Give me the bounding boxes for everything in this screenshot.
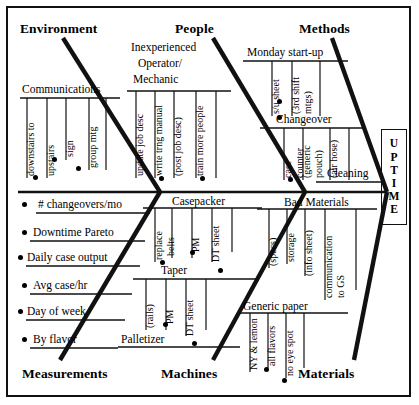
- branch-label-casepacker: Casepacker: [172, 196, 225, 208]
- cause-case: case: [283, 161, 293, 178]
- uptime-letter-u: U: [390, 137, 398, 150]
- branch-label-mechanic: Mechanic: [133, 74, 178, 86]
- cause-to-gs: to GS: [336, 275, 346, 298]
- cause-dot: [159, 176, 164, 181]
- measurement-changeovers-per-mo: # changeovers/mo: [38, 199, 122, 211]
- cause-dot: [277, 99, 282, 104]
- cause-dot: [218, 268, 223, 273]
- cause-train-more-people: train more people: [195, 105, 205, 176]
- cause-downstairs-to: downstairs to: [26, 122, 36, 176]
- category-header-people: People: [175, 22, 214, 36]
- branch-label-inexperienced: Inexperienced: [131, 42, 196, 54]
- cause-dot: [190, 250, 195, 255]
- uptime-letter-t: T: [390, 164, 398, 177]
- cause-dot: [33, 175, 38, 180]
- cause-specs: (specs): [268, 238, 278, 266]
- uptime-letter-i: I: [392, 177, 396, 190]
- branch-label-bad-materials: Bad Materials: [284, 197, 349, 209]
- cause-post-job-desc: (post job desc): [173, 117, 183, 176]
- branch-label-taper: Taper: [161, 265, 187, 277]
- cause-3rd-shift: (3rd shift: [291, 77, 301, 114]
- branch-label-changeover: Changeover: [276, 114, 332, 126]
- cause-dot: [264, 367, 269, 372]
- branch-label-monday-startup: Monday start-up: [247, 47, 323, 59]
- category-header-machines: Machines: [161, 367, 217, 381]
- branch-label-communications: Communications: [22, 84, 101, 96]
- measurement-daily-case-output: Daily case output: [27, 252, 107, 264]
- category-header-methods: Methods: [299, 22, 350, 36]
- cause-dot: [288, 177, 293, 182]
- cause-generic: (generic: [302, 145, 312, 178]
- cause-dot: [18, 309, 23, 314]
- branch-label-palletizer: Palletizer: [121, 334, 164, 346]
- cause-su-sheet: s/u sheet: [271, 79, 281, 114]
- cause-dot: [163, 322, 168, 327]
- cause-no-eye-spot: no eye spot: [285, 330, 295, 376]
- cause-dot: [22, 337, 27, 342]
- cause-rails: (rails): [145, 304, 155, 328]
- fishbone-diagram: Environment People Methods Measurements …: [0, 0, 419, 405]
- cause-communication: communication: [324, 236, 334, 298]
- cause-replace: replace: [154, 231, 164, 260]
- cause-casepacker-dt-sheet: DT sheet: [211, 226, 221, 262]
- cause-info-sheet: (info sheet): [304, 230, 314, 276]
- cause-dot: [22, 202, 27, 207]
- uptime-letter-m: M: [389, 190, 400, 203]
- cause-update-job-desc: update job desc: [135, 114, 145, 176]
- measurement-day-of-week: Day of week: [27, 306, 86, 318]
- cause-all-flavors: all flavors: [267, 326, 277, 366]
- category-header-materials: Materials: [298, 367, 354, 381]
- cause-pouch: pouch): [314, 150, 324, 178]
- branch-label-operator: Operator/: [138, 58, 182, 70]
- cause-mtgs: mtgs): [303, 91, 313, 114]
- category-header-measurements: Measurements: [22, 367, 108, 381]
- cause-dot: [52, 157, 57, 162]
- cause-dot: [282, 378, 287, 383]
- cause-dot: [76, 166, 81, 171]
- cause-storage: storage: [286, 233, 296, 262]
- cause-write-trng-manual: write trng manual: [154, 105, 164, 176]
- uptime-letter-p: P: [390, 151, 397, 164]
- effect-box-uptime: U P T I M E: [381, 129, 407, 225]
- branch-label-generic-paper: Generic paper: [243, 301, 308, 313]
- cause-dot: [22, 283, 27, 288]
- cause-dot: [200, 176, 205, 181]
- cause-belts: belts: [166, 237, 176, 256]
- cause-taper-dt-sheet: DT sheet: [185, 300, 195, 336]
- cause-dot: [18, 255, 23, 260]
- measurement-avg-case-per-hr: Avg case/hr: [33, 280, 87, 292]
- category-header-environment: Environment: [20, 22, 97, 36]
- cause-group-mtg: group mtg: [88, 127, 98, 168]
- measurement-downtime-pareto: Downtime Pareto: [33, 227, 114, 239]
- cause-dot: [192, 341, 197, 346]
- cause-ny-lemon: NY & lemon: [249, 318, 259, 370]
- uptime-letter-e: E: [390, 203, 398, 216]
- cause-dot: [22, 230, 27, 235]
- measurement-by-flavor: By flavor: [33, 334, 77, 346]
- cause-sign: sign: [65, 140, 75, 157]
- branch-label-cleaning: Cleaning: [327, 168, 369, 180]
